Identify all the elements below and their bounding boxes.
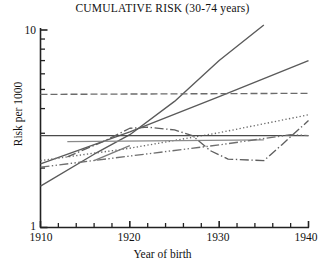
y-axis-label: Risk per 1000 [12, 54, 24, 174]
series-line-series-8-dashdotdot-rising [41, 135, 309, 167]
x-tick-label-1910: 1910 [19, 231, 63, 243]
chart-title: CUMULATIVE RISK (30-74 years) [0, 2, 325, 14]
series-line-series-1-steep-rising [41, 25, 264, 186]
x-tick-label-1930: 1930 [196, 231, 240, 243]
series-line-series-9-short-rising-left [94, 146, 130, 161]
plot-canvas [0, 0, 325, 266]
series-line-series-2-rising [41, 61, 309, 164]
chart-figure: CUMULATIVE RISK (30-74 years) Risk per 1… [0, 0, 325, 266]
series-line-series-3-flat-high-dashed [41, 93, 309, 94]
x-tick-label-1920: 1920 [107, 231, 151, 243]
y-tick-marks [41, 30, 48, 228]
x-tick-marks [41, 221, 309, 228]
x-tick-label-1940: 1940 [284, 231, 325, 243]
y-tick-label-10: 10 [14, 24, 36, 36]
series-line-series-6-flat-mid-grey [67, 140, 264, 142]
data-series-layer [41, 25, 309, 186]
x-axis-label: Year of birth [0, 248, 325, 260]
axis-lines [40, 28, 309, 228]
